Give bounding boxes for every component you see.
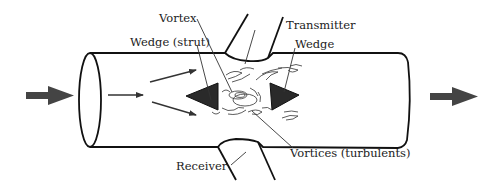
wedge-strut-icon — [186, 83, 218, 110]
label-vortex: Vortex — [158, 11, 197, 25]
wedge-icon — [270, 83, 299, 110]
vortex-flowmeter-diagram: Vortex Wedge (strut) Transmitter Wedge R… — [0, 0, 504, 184]
outlet-flow-arrow-icon — [430, 87, 478, 106]
pipe-body — [79, 53, 410, 148]
inlet-flow-arrow-icon — [26, 86, 74, 105]
internal-flow-arrows — [108, 70, 196, 115]
label-wedge: Wedge — [295, 37, 334, 51]
transmitter-port — [225, 14, 283, 58]
pipe-inlet-opening — [79, 53, 101, 147]
label-wedge-strut: Wedge (strut) — [130, 35, 210, 49]
label-transmitter: Transmitter — [286, 18, 356, 32]
label-receiver: Receiver — [176, 159, 228, 173]
label-vortices: Vortices (turbulents) — [289, 146, 410, 160]
